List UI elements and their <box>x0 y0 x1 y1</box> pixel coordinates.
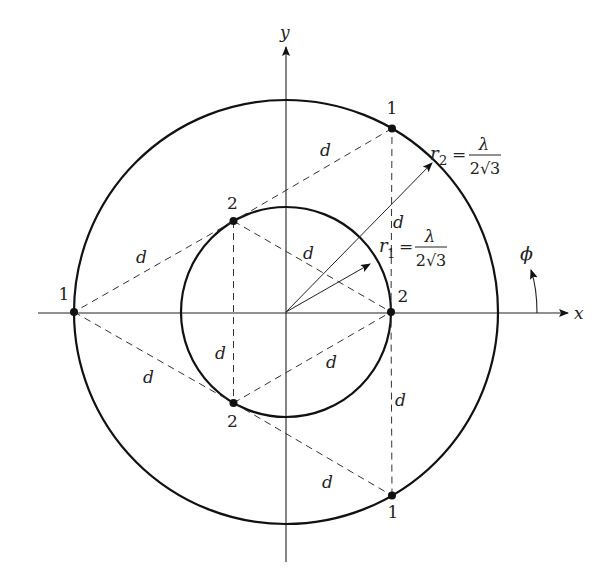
r2-numerator: λ <box>478 134 490 154</box>
r1-formula: r 1 = λ 2√3 <box>379 226 447 270</box>
dashed-distance-lines <box>74 128 392 495</box>
dashed-edge <box>74 221 234 312</box>
r2-subscript: 2 <box>439 153 447 168</box>
dashed-edge <box>234 403 393 496</box>
r1-radius-arrow <box>286 264 370 312</box>
dashed-edge <box>391 128 392 312</box>
r2-denominator: 2√3 <box>470 159 501 178</box>
r1-denominator: 2√3 <box>416 251 447 270</box>
dashed-edge <box>234 312 392 403</box>
phi-angle-arc <box>531 270 537 313</box>
element-point-label: 1 <box>59 284 70 304</box>
edge-label-d: d <box>393 212 404 232</box>
antenna-array-diagram: x y ϕ 111222 d d d d d d d d d r 2 = λ 2… <box>0 0 607 573</box>
element-point-label: 2 <box>227 411 238 431</box>
dashed-edge <box>74 312 234 403</box>
dashed-edge <box>234 128 393 221</box>
element-point <box>230 399 238 407</box>
edge-label-d: d <box>326 352 337 372</box>
element-point <box>230 217 238 225</box>
element-point <box>388 124 396 132</box>
r1-numerator: λ <box>424 226 436 246</box>
edge-label-d: d <box>215 343 226 363</box>
r2-formula: r 2 = λ 2√3 <box>430 134 501 178</box>
element-point <box>70 308 78 316</box>
edge-label-d: d <box>136 247 147 267</box>
element-point-label: 1 <box>387 98 398 118</box>
edge-label-d: d <box>143 367 154 387</box>
edge-label-d: d <box>320 140 331 160</box>
edge-label-d: d <box>395 390 406 410</box>
element-point-label: 2 <box>227 193 238 213</box>
element-point <box>388 492 396 500</box>
r1-subscript: 1 <box>387 246 395 261</box>
edge-label-d: d <box>322 472 333 492</box>
r2-equals: = <box>452 144 466 164</box>
phi-label: ϕ <box>520 242 533 264</box>
dashed-edge <box>234 221 392 312</box>
x-axis-label: x <box>574 303 584 323</box>
edge-label-d: d <box>303 243 314 263</box>
element-point-label: 2 <box>398 286 409 306</box>
r1-equals: = <box>399 236 413 256</box>
element-point-label: 1 <box>388 502 399 522</box>
element-point <box>387 308 395 316</box>
y-axis-label: y <box>279 22 290 42</box>
dashed-edge <box>391 312 392 496</box>
